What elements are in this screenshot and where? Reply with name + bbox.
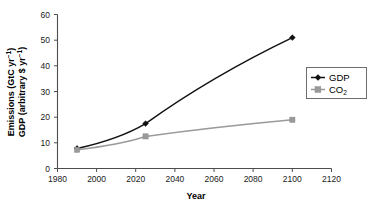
x-tick-label: 2000	[87, 174, 106, 184]
x-tick-label: 2100	[283, 174, 302, 184]
y-ticks-group: 0 10 20 30 40 50 60	[41, 10, 58, 174]
data-point-gdp[interactable]	[289, 35, 295, 41]
x-tick-label: 2080	[244, 174, 263, 184]
series-layer	[74, 35, 295, 153]
y-axis-title-line1: Emissions (GtC yr−1)	[5, 48, 16, 136]
x-tick-label: 2040	[165, 174, 184, 184]
y-tick-label: 20	[41, 112, 51, 122]
legend-label-co2-sub: 2	[343, 89, 347, 96]
chart-figure: 0 10 20 30 40 50 60 1980 2000 2020 2040 …	[0, 0, 373, 210]
x-axis-title: Year	[186, 191, 206, 201]
x-tick-label: 2120	[322, 174, 341, 184]
y-tick-label: 0	[45, 164, 50, 174]
x-tick-label: 2020	[126, 174, 145, 184]
data-point-co2[interactable]	[74, 147, 79, 152]
y-axis-title-line2-tail: )	[17, 47, 27, 50]
x-ticks-group: 1980 2000 2020 2040 2060 2080 2100 2120	[48, 169, 341, 185]
legend-label-gdp: GDP	[329, 72, 350, 83]
data-point-co2[interactable]	[290, 117, 295, 122]
legend-label-co2-main: CO	[329, 84, 343, 95]
y-tick-label: 30	[41, 87, 51, 97]
y-axis-title-line2-main: GDP (arbitrary $ yr	[17, 57, 27, 137]
y-tick-label: 10	[41, 138, 51, 148]
y-tick-label: 50	[41, 35, 51, 45]
line-chart: 0 10 20 30 40 50 60 1980 2000 2020 2040 …	[0, 0, 373, 210]
y-tick-label: 60	[41, 10, 51, 20]
chart-legend: GDP CO2	[307, 68, 367, 99]
legend-marker-square-icon	[315, 87, 321, 93]
y-axis-title-line1-main: Emissions (GtC yr	[6, 58, 16, 137]
x-tick-label: 1980	[48, 174, 67, 184]
series-line-co2	[77, 120, 292, 150]
y-axis-title-line2: GDP (arbitrary $ yr−1)	[16, 47, 27, 137]
x-tick-label: 2060	[205, 174, 224, 184]
data-point-co2[interactable]	[143, 134, 148, 139]
y-tick-label: 40	[41, 61, 51, 71]
y-axis-title: Emissions (GtC yr−1) GDP (arbitrary $ yr…	[5, 47, 27, 137]
y-axis-title-line1-tail: )	[6, 48, 16, 51]
